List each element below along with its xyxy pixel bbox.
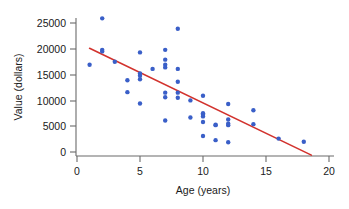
data-point: [176, 96, 180, 100]
data-point: [138, 101, 142, 105]
data-point: [163, 65, 167, 69]
y-tick-label: 15000: [37, 69, 66, 81]
data-point: [100, 16, 104, 20]
data-point: [201, 120, 205, 124]
data-point: [201, 94, 205, 98]
data-point: [125, 78, 129, 82]
data-point: [138, 77, 142, 81]
data-point: [276, 136, 280, 140]
data-point: [201, 114, 205, 118]
data-point: [176, 90, 180, 94]
data-point: [87, 63, 91, 67]
x-axis-title: Age (years): [176, 184, 230, 196]
x-tick-label: 10: [197, 165, 209, 177]
data-point: [302, 139, 306, 143]
x-tick-label: 0: [74, 165, 80, 177]
data-point: [251, 122, 255, 126]
y-tick-label: 5000: [43, 120, 67, 132]
data-point: [176, 26, 180, 30]
data-point: [163, 90, 167, 94]
data-point: [150, 67, 154, 71]
data-point: [100, 49, 104, 53]
y-tick-label: 20000: [37, 43, 66, 55]
data-point: [163, 95, 167, 99]
data-point: [226, 140, 230, 144]
y-tick-label: 0: [60, 146, 66, 158]
data-point: [213, 138, 217, 142]
x-tick-label: 5: [137, 165, 143, 177]
y-tick-label: 10000: [37, 95, 66, 107]
data-point: [113, 60, 117, 64]
data-point: [163, 118, 167, 122]
data-point: [176, 80, 180, 84]
data-point: [251, 108, 255, 112]
data-point: [188, 98, 192, 102]
chart-canvas: 25000 20000 15000 10000 5000 0 0 5 10 15…: [0, 0, 349, 209]
data-point: [226, 123, 230, 127]
data-point: [163, 48, 167, 52]
data-point: [201, 134, 205, 138]
data-point: [125, 90, 129, 94]
scatter-plot-figure: 25000 20000 15000 10000 5000 0 0 5 10 15…: [0, 0, 349, 209]
x-tick-label: 20: [323, 165, 335, 177]
y-axis-title: Value (dollars): [12, 54, 24, 121]
y-tick-label: 25000: [37, 17, 66, 29]
x-tick-label: 15: [260, 165, 272, 177]
data-point: [138, 50, 142, 54]
data-point: [188, 115, 192, 119]
data-point: [213, 123, 217, 127]
data-point: [163, 57, 167, 61]
data-point: [226, 102, 230, 106]
data-point: [226, 117, 230, 121]
data-point: [176, 67, 180, 71]
